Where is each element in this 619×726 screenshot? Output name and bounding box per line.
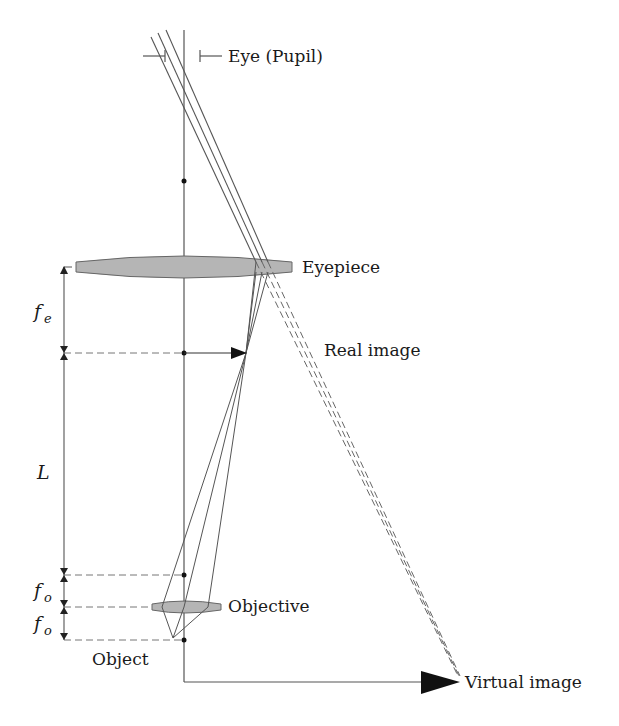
- eyepiece-lens: [76, 256, 292, 278]
- virtual-image-label: Virtual image: [464, 672, 582, 692]
- microscope-diagram: Eye (Pupil) Eyepiece Real image Objectiv…: [0, 0, 619, 726]
- svg-text:e: e: [44, 311, 52, 326]
- L-symbol: L: [36, 461, 50, 483]
- objective-focal-point-top: [182, 573, 187, 578]
- dimension-guides: [64, 353, 184, 640]
- eyepiece-rays: [246, 272, 268, 353]
- eye-pupil-label: Eye (Pupil): [228, 46, 323, 66]
- virtual-image-arrowhead: [421, 671, 460, 694]
- fe-symbol: f e: [32, 300, 52, 326]
- fo-upper-symbol: f o: [32, 579, 52, 605]
- eyepiece-label: Eyepiece: [302, 257, 380, 277]
- svg-text:o: o: [44, 590, 52, 605]
- object-label: Object: [92, 649, 149, 669]
- svg-text:f: f: [32, 579, 44, 601]
- eyepiece-focal-point-top: [182, 179, 187, 184]
- svg-text:f: f: [32, 612, 44, 634]
- pupil-marker: [143, 50, 222, 62]
- svg-text:L: L: [36, 461, 50, 483]
- objective-rays: [162, 262, 256, 638]
- real-image-label: Real image: [324, 340, 420, 360]
- fo-lower-symbol: f o: [32, 612, 52, 638]
- svg-text:f: f: [32, 300, 44, 322]
- svg-text:o: o: [44, 623, 52, 638]
- objective-focal-point-bottom: [182, 638, 187, 643]
- objective-label: Objective: [228, 596, 310, 616]
